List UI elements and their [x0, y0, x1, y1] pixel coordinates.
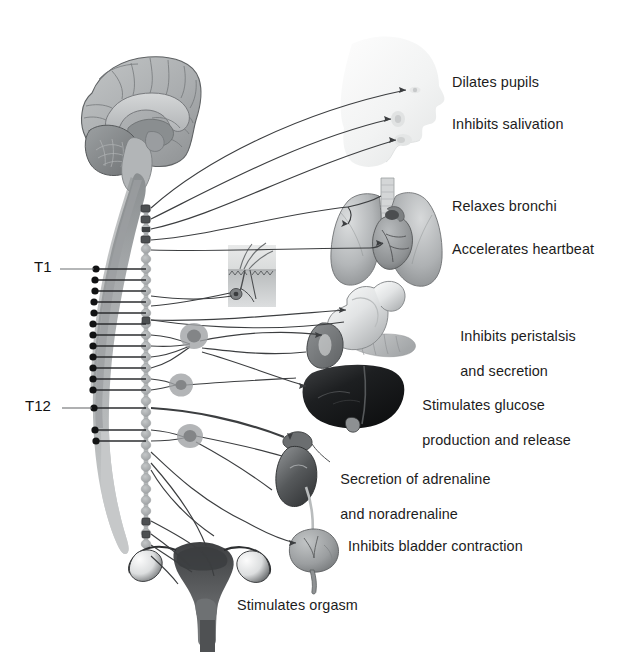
sympathetic-nervous-system-diagram: T1 T12 Dilates pupils Inhibits salivatio… [0, 0, 626, 658]
prevertebral-ganglia [169, 323, 208, 448]
stomach-duodenum-pancreas [307, 281, 416, 377]
organ-label-dilates-pupils: Dilates pupils [452, 74, 539, 92]
spine-label-t1: T1 [34, 258, 52, 275]
organ-label-inhibits-salivation: Inhibits salivation [452, 116, 564, 134]
label-leader-lines [312, 444, 330, 462]
head-profile-silhouette [341, 36, 445, 166]
organ-label-accelerates-heartbeat: Accelerates heartbeat [452, 241, 594, 259]
label-line-2: production and release [422, 432, 571, 448]
label-line-1: Stimulates glucose [422, 397, 545, 413]
label-line-1: Secretion of adrenaline [340, 471, 490, 487]
label-line-2: and secretion [460, 363, 548, 379]
organ-label-inhibits-bladder-contraction: Inhibits bladder contraction [348, 538, 523, 556]
lungs-and-heart [331, 178, 442, 286]
label-line-2: and noradrenaline [340, 506, 458, 522]
brain-sagittal-section [82, 57, 201, 193]
spinal-cord [93, 173, 146, 554]
organ-label-stimulates-orgasm: Stimulates orgasm [237, 597, 358, 615]
spine-label-t12: T12 [25, 397, 51, 414]
skin-hair-follicle-inset [228, 243, 276, 307]
liver [303, 365, 405, 432]
label-line-1: Inhibits peristalsis [460, 328, 576, 344]
organ-label-inhibits-peristalsis: Inhibits peristalsis and secretion [452, 310, 576, 380]
organ-label-secretion-of-adrenaline: Secretion of adrenaline and noradrenalin… [332, 453, 491, 523]
kidney-with-adrenal-gland [276, 432, 317, 538]
spine-label-leaders [60, 269, 94, 408]
organ-label-relaxes-bronchi: Relaxes bronchi [452, 198, 557, 216]
organ-label-stimulates-glucose: Stimulates glucose production and releas… [414, 379, 571, 449]
urinary-bladder [289, 529, 338, 594]
